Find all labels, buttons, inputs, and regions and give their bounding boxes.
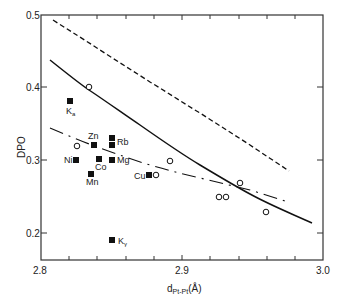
- marker-Mg: [109, 157, 115, 163]
- label-Ni: Ni: [64, 155, 73, 165]
- plot-frame: [41, 15, 323, 260]
- x-tick-2.9: 2.9: [175, 265, 189, 276]
- marker-Cu: [146, 172, 152, 178]
- label-Ka: Ka: [66, 106, 76, 117]
- x-axis-label: dPt-Pt(Å): [167, 282, 201, 295]
- x-tick-3.0: 3.0: [316, 265, 330, 276]
- marker-Rb-2: [109, 142, 115, 148]
- x-tick-2.8: 2.8: [33, 265, 47, 276]
- y-tick-0.3: 0.3: [26, 155, 40, 166]
- y-tick-0.2: 0.2: [26, 228, 40, 239]
- chart: 0.5 0.4 0.3 0.2 2.8 2.9 3.0 DPO dPt-Pt(Å…: [0, 0, 340, 299]
- x-ticks-top: [69, 15, 295, 20]
- x-ticks-bottom: [69, 255, 295, 260]
- marker-Ka: [67, 98, 73, 104]
- marker-Rb-1: [109, 135, 115, 141]
- label-Ky: Kγ: [118, 236, 127, 247]
- marker-Ky: [109, 237, 115, 243]
- label-Co: Co: [95, 162, 107, 172]
- label-Mg: Mg: [117, 155, 130, 165]
- label-Cu: Cu: [134, 171, 146, 181]
- label-Mn: Mn: [86, 177, 99, 187]
- marker-Zn: [91, 142, 97, 148]
- y-axis-label: DPO: [16, 136, 27, 158]
- marker-Ni: [73, 157, 79, 163]
- y-tick-0.5: 0.5: [26, 10, 40, 21]
- dashed-curve: [53, 20, 289, 171]
- y-tick-0.4: 0.4: [26, 82, 40, 93]
- dash-dot-curve: [50, 128, 288, 202]
- label-Rb: Rb: [117, 137, 129, 147]
- label-Zn: Zn: [88, 131, 99, 141]
- y-ticks: [41, 87, 323, 233]
